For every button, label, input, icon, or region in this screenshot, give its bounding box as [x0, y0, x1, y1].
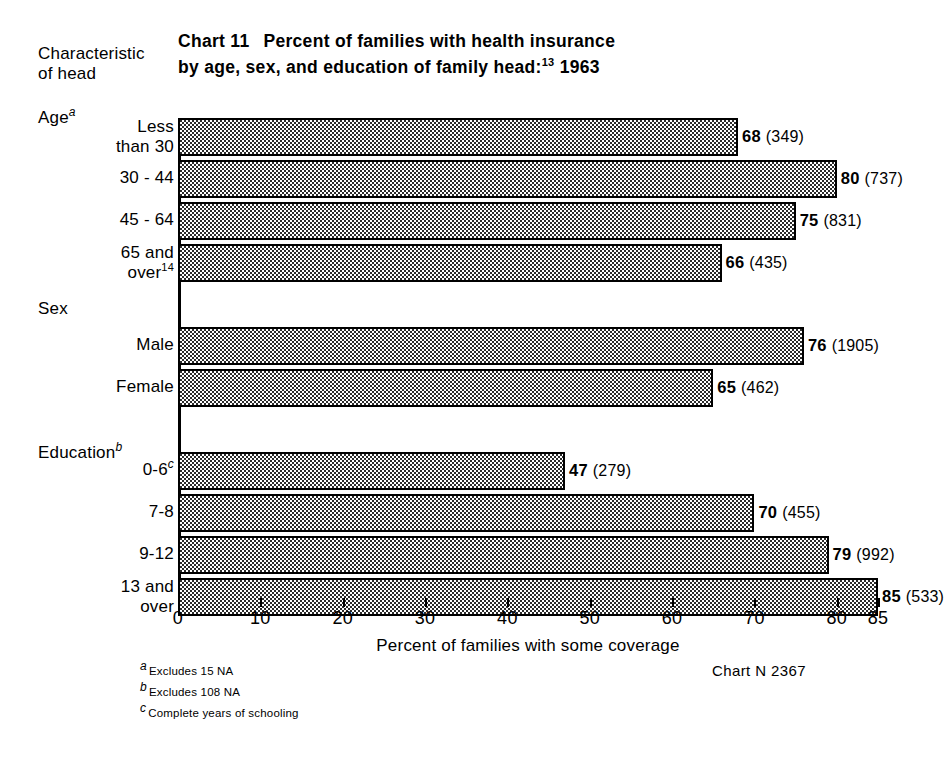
footnote-c-text: Complete years of schooling: [148, 706, 299, 718]
title-line-2: by age, sex, and education of family hea…: [178, 54, 798, 80]
bar-value-count: (831): [823, 212, 861, 229]
title-text-1: Percent of families with health insuranc…: [263, 31, 615, 51]
bar-category-label-line1: Female: [4, 377, 174, 397]
bar-category-label-line1: 65 and: [4, 243, 174, 263]
bar-category-label: Lessthan 30: [4, 117, 178, 157]
footnote-b: bExcludes 108 NA: [140, 679, 299, 700]
footnote-a: aExcludes 15 NA: [140, 658, 299, 679]
bar: [178, 244, 722, 282]
page-title: Chart 11Percent of families with health …: [178, 28, 798, 80]
footnote-a-text: Excludes 15 NA: [149, 665, 234, 677]
bar-value-label: 47(279): [569, 461, 631, 480]
bar-row: Male76(1905): [178, 327, 878, 365]
bar-value-label: 70(455): [758, 503, 820, 522]
bar-category-label: 7-8: [4, 502, 178, 522]
bar-value-number: 79: [833, 545, 852, 563]
bar: [178, 160, 837, 198]
x-tick-mark: [878, 598, 880, 607]
title-footnote-ref: 13: [542, 56, 555, 68]
bar-category-label: 30 - 44: [4, 168, 178, 188]
title-year: 1963: [560, 57, 600, 77]
bar-category-label-line1: 0-6c: [4, 460, 174, 480]
axis-caption: Characteristic of head: [38, 44, 188, 84]
bar-category-label-line2: than 30: [4, 137, 174, 157]
bar-value-count: (533): [906, 588, 944, 605]
bar-category-label-line1: 13 and: [4, 577, 174, 597]
bar-category-label-line1: Male: [4, 335, 174, 355]
bar-value-label: 76(1905): [808, 336, 879, 355]
group-heading-education-footnote: b: [115, 440, 122, 454]
bar-value-label: 85(533): [882, 587, 944, 606]
axis-caption-line1: Characteristic: [38, 44, 188, 64]
bar-value-count: (279): [593, 462, 631, 479]
chart-id-label: Chart N 2367: [712, 662, 806, 679]
bar-category-label-line1: 7-8: [4, 502, 174, 522]
bar-category-label-line1: 30 - 44: [4, 168, 174, 188]
bar-value-count: (349): [766, 128, 804, 145]
footnotes: aExcludes 15 NA bExcludes 108 NA cComple…: [140, 658, 299, 720]
bar-value-number: 76: [808, 336, 827, 354]
bar-value-count: (1905): [832, 337, 879, 354]
x-axis-title: Percent of families with some coverage: [178, 636, 878, 656]
footnote-c-mark: c: [140, 701, 146, 715]
bar-category-label-line2: over14: [4, 263, 174, 283]
bar-value-count: (992): [856, 546, 894, 563]
bar-row: Lessthan 3068(349): [178, 118, 878, 156]
bar-category-label: 65 andover14: [4, 243, 178, 283]
bar: [178, 327, 804, 365]
bar-value-count: (435): [749, 254, 787, 271]
bar-value-number: 65: [717, 378, 736, 396]
bar-row: 30 - 4480(737): [178, 160, 878, 198]
bar: [178, 369, 713, 407]
bar-category-label-line1: Less: [4, 117, 174, 137]
bar-value-label: 79(992): [833, 545, 895, 564]
bar: [178, 202, 796, 240]
bar-value-number: 68: [742, 127, 761, 145]
footnote-b-text: Excludes 108 NA: [149, 686, 240, 698]
bar-value-label: 66(435): [726, 253, 788, 272]
group-heading-sex-label: Sex: [38, 299, 68, 318]
bar-row: Female65(462): [178, 369, 878, 407]
bar-category-label: Male: [4, 335, 178, 355]
bar-row: 7-870(455): [178, 494, 878, 532]
bar-category-label: 9-12: [4, 544, 178, 564]
group-heading-sex: Sex: [38, 299, 68, 319]
bar-category-label-line1: 45 - 64: [4, 210, 174, 230]
bar: [178, 494, 754, 532]
bar: [178, 452, 565, 490]
bar-category-label: 45 - 64: [4, 210, 178, 230]
bar-row: 13 andover85(533): [178, 578, 878, 616]
bar-value-number: 75: [800, 211, 819, 229]
bar-category-label: 13 andover: [4, 577, 178, 617]
title-line-1: Chart 11Percent of families with health …: [178, 28, 798, 54]
bar-category-label-sup: 14: [161, 261, 174, 273]
bar-row: 45 - 6475(831): [178, 202, 878, 240]
footnote-c: cComplete years of schooling: [140, 700, 299, 721]
bar-value-label: 68(349): [742, 127, 804, 146]
chart-number: Chart 11: [178, 31, 249, 51]
bar-row: 0-6c47(279): [178, 452, 878, 490]
footnote-b-mark: b: [140, 680, 147, 694]
bar-category-label-line2: over: [4, 597, 174, 617]
bar-value-number: 80: [841, 169, 860, 187]
bar-category-label: 0-6c: [4, 460, 178, 480]
footnote-a-mark: a: [140, 659, 147, 673]
bar-value-label: 75(831): [800, 211, 862, 230]
bar-value-number: 85: [882, 587, 901, 605]
axis-caption-line2: of head: [38, 64, 188, 84]
bar-category-label: Female: [4, 377, 178, 397]
bar-value-label: 80(737): [841, 169, 903, 188]
bar-value-count: (737): [865, 170, 903, 187]
bar-row: 9-1279(992): [178, 536, 878, 574]
bar-value-count: (462): [741, 379, 779, 396]
bar-category-label-sup: c: [168, 457, 174, 471]
title-text-2: by age, sex, and education of family hea…: [178, 57, 542, 77]
bar: [178, 578, 878, 616]
bar-category-label-line1: 9-12: [4, 544, 174, 564]
bar-value-number: 66: [726, 253, 745, 271]
bar-value-number: 70: [758, 503, 777, 521]
bar-value-count: (455): [782, 504, 820, 521]
bar-value-label: 65(462): [717, 378, 779, 397]
plot-area: Lessthan 3068(349)30 - 4480(737)45 - 647…: [178, 118, 878, 598]
